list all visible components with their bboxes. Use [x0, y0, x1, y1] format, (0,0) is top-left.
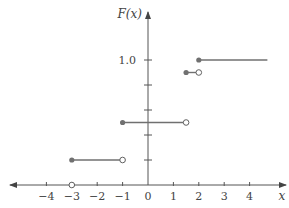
cdf-step-chart: −4−3−2−1012341.0 F(x) x — [0, 0, 289, 208]
open-dot — [183, 120, 189, 126]
filled-dot — [184, 70, 189, 75]
open-dot — [120, 157, 126, 163]
x-tick-label: −1 — [114, 190, 130, 203]
step-segments — [69, 57, 267, 187]
x-tick-label: 3 — [221, 190, 228, 203]
filled-dot — [120, 120, 125, 125]
axes — [10, 12, 286, 185]
axis-labels: F(x) x — [117, 7, 286, 203]
x-tick-label: 0 — [145, 190, 152, 203]
open-dot — [69, 182, 75, 188]
x-tick-label: −4 — [38, 190, 54, 203]
x-axis-label: x — [279, 189, 286, 203]
x-tick-label: −2 — [89, 190, 105, 203]
open-dot — [196, 70, 202, 76]
x-tick-label: 4 — [246, 190, 253, 203]
x-tick-label: 2 — [195, 190, 202, 203]
filled-dot — [196, 57, 201, 62]
x-tick-label: −3 — [64, 190, 80, 203]
axis-ticks: −4−3−2−1012341.0 — [38, 54, 253, 203]
x-tick-label: 1 — [170, 190, 177, 203]
y-tick-label: 1.0 — [119, 54, 137, 67]
filled-dot — [69, 157, 74, 162]
y-axis-label: F(x) — [117, 7, 143, 21]
